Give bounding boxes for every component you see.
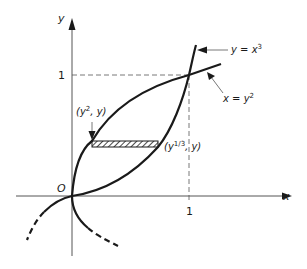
x-tick-label-1: 1 bbox=[186, 205, 193, 218]
origin-label: O bbox=[57, 182, 66, 195]
diagram-canvas: y x O 1 1 y = x3 x = y2 (y2, y) (y1/3, y… bbox=[0, 0, 307, 269]
curve-x-equals-y-squared-lower-branch bbox=[72, 196, 88, 228]
y-axis bbox=[69, 18, 76, 256]
label-x-equals-y-squared: x = y2 bbox=[222, 92, 254, 104]
curve-y-equals-x-cubed bbox=[72, 45, 196, 196]
y-tick-label-1: 1 bbox=[58, 69, 65, 82]
label-right-point: (y1/3, y) bbox=[164, 140, 201, 152]
curve-y-equals-x-cubed-negative bbox=[44, 196, 72, 212]
curve-x-equals-y-squared bbox=[72, 64, 221, 196]
y-axis-label: y bbox=[57, 12, 65, 25]
curve-y-equals-x-cubed-negative-dashed bbox=[27, 212, 44, 240]
pointer-arrow-y-equals-x-cubed bbox=[197, 47, 228, 54]
pointer-arrow-x-equals-y-squared bbox=[207, 72, 223, 93]
label-y-equals-x-cubed: y = x3 bbox=[230, 43, 262, 55]
curve-x-equals-y-squared-lower-dashed bbox=[88, 228, 118, 246]
x-axis-label: x bbox=[282, 190, 290, 203]
label-left-point: (y2, y) bbox=[76, 105, 106, 117]
y-axis-arrow-icon bbox=[69, 18, 76, 30]
intersection-guides bbox=[72, 75, 189, 203]
hatched-strip bbox=[92, 141, 158, 147]
